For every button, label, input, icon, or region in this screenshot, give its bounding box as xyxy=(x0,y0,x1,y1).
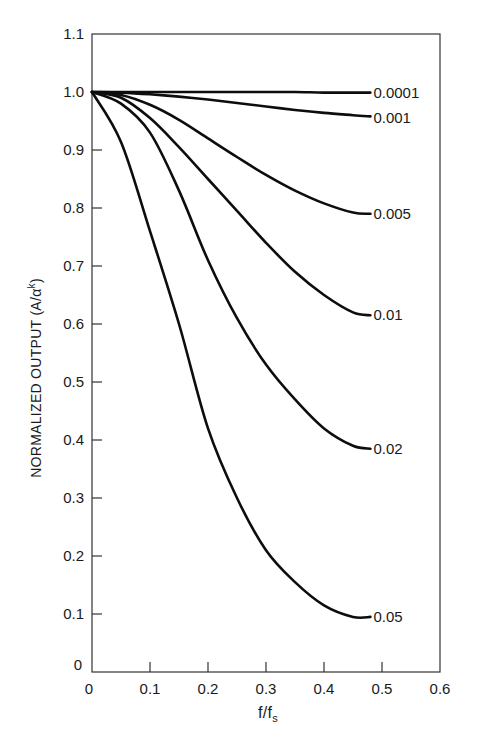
curve-0_05 xyxy=(92,92,370,618)
x-axis-ticks: 00.10.20.30.40.50.6 xyxy=(85,662,451,697)
x-tick-label: 0.4 xyxy=(314,680,335,697)
series-label: 0.02 xyxy=(373,440,402,457)
curve-0_01 xyxy=(92,92,370,315)
y-tick-label: 0.1 xyxy=(63,605,84,622)
line-chart: 00.10.20.30.40.50.6 00.10.20.30.40.50.60… xyxy=(0,0,478,751)
y-tick-label: 0.6 xyxy=(63,315,84,332)
x-axis-title: f/fs xyxy=(258,704,278,724)
plot-frame xyxy=(92,34,440,672)
x-tick-label: 0.1 xyxy=(140,680,161,697)
y-tick-label: 0.3 xyxy=(63,489,84,506)
x-tick-label: 0.6 xyxy=(430,680,451,697)
y-tick-label: 0.2 xyxy=(63,547,84,564)
y-tick-label: 0.9 xyxy=(63,141,84,158)
series-label: 0.001 xyxy=(373,109,411,126)
y-tick-label: 0 xyxy=(74,656,82,673)
y-tick-label: 0.7 xyxy=(63,257,84,274)
y-tick-label: 0.5 xyxy=(63,373,84,390)
y-tick-label: 0.4 xyxy=(63,431,84,448)
y-tick-label: 1.0 xyxy=(63,83,84,100)
series-label: 0.01 xyxy=(373,306,402,323)
y-tick-label: 1.1 xyxy=(63,25,84,42)
data-curves xyxy=(92,92,370,618)
curve-0_005 xyxy=(92,92,370,214)
series-label: 0.05 xyxy=(373,608,402,625)
y-axis-ticks: 00.10.20.30.40.50.60.70.80.91.01.1 xyxy=(63,25,102,673)
series-label: 0.005 xyxy=(373,205,411,222)
x-tick-label: 0.5 xyxy=(372,680,393,697)
y-tick-label: 0.8 xyxy=(63,199,84,216)
plot-border xyxy=(92,34,440,672)
x-tick-label: 0 xyxy=(85,680,93,697)
series-label: 0.0001 xyxy=(373,84,419,101)
curve-0_02 xyxy=(92,92,370,449)
series-labels: 0.00010.0010.0050.010.020.05 xyxy=(373,84,419,625)
y-axis-title: NORMALIZED OUTPUT (A/αk) xyxy=(26,278,44,478)
x-tick-label: 0.3 xyxy=(256,680,277,697)
x-tick-label: 0.2 xyxy=(198,680,219,697)
